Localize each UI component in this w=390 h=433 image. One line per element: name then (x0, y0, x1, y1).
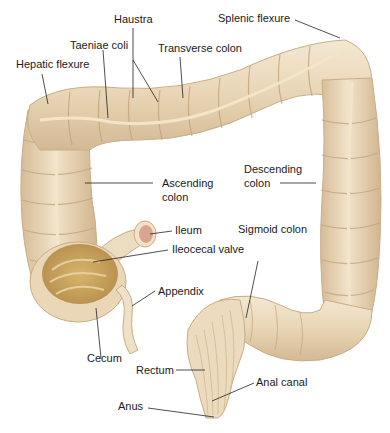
cecum (30, 242, 126, 322)
label-anal-canal: Anal canal (256, 376, 307, 389)
label-ascending-colon-line1: Ascending (162, 177, 213, 190)
label-rectum: Rectum (136, 364, 174, 377)
label-ileum: Ileum (175, 224, 202, 237)
label-appendix: Appendix (158, 285, 204, 298)
label-descending-colon-line2: colon (244, 177, 270, 190)
label-ascending-colon-line2: colon (162, 191, 188, 204)
label-haustra: Haustra (114, 13, 153, 26)
transverse-colon (28, 40, 372, 150)
label-anus: Anus (118, 400, 143, 413)
label-splenic-flexure: Splenic flexure (218, 12, 290, 25)
label-ileocecal-valve: Ileocecal valve (172, 243, 244, 256)
label-transverse-colon: Transverse colon (158, 42, 242, 55)
label-taeniae-coli: Taeniae coli (70, 39, 128, 52)
label-sigmoid-colon: Sigmoid colon (238, 223, 307, 236)
label-descending-colon-line1: Descending (244, 163, 302, 176)
descending-colon (321, 78, 381, 320)
rectum (187, 299, 245, 418)
label-hepatic-flexure: Hepatic flexure (16, 58, 89, 71)
label-cecum: Cecum (87, 352, 122, 365)
